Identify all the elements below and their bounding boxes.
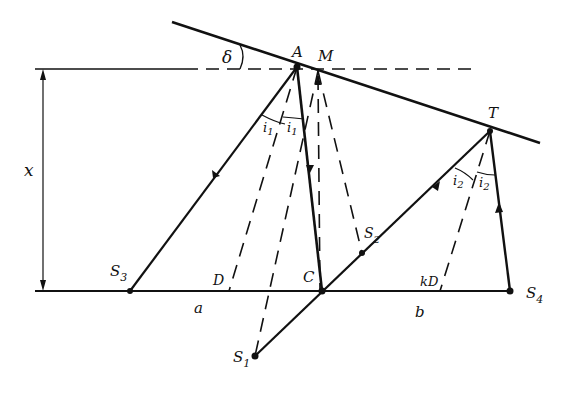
point-s1	[252, 353, 259, 360]
label-kd: kD	[420, 274, 439, 289]
point-s4	[507, 288, 514, 295]
angle-delta-arc	[240, 45, 243, 69]
label-b-distance: b	[415, 303, 425, 321]
label-s3: S3	[110, 262, 127, 284]
label-i2-left: i2	[453, 173, 464, 190]
label-t: T	[488, 104, 499, 122]
label-c: C	[303, 268, 315, 286]
seismic-reflection-diagram: A M T δ x S3 S4 S1 S2 C D kD a b i1 i1 i…	[0, 0, 573, 399]
label-i1-right: i1	[287, 120, 298, 137]
angle-i1-right-arc	[283, 117, 304, 119]
label-m: M	[317, 47, 334, 65]
depth-arrow-top	[40, 69, 46, 80]
label-i1-left: i1	[263, 120, 274, 137]
dashed-m-s2	[318, 71, 362, 253]
ray-s4-t-arrow	[495, 202, 503, 213]
label-d: D	[212, 272, 224, 288]
dashed-m-s1	[255, 71, 318, 356]
point-t	[487, 128, 493, 134]
label-delta: δ	[222, 47, 232, 67]
dashed-a-d	[229, 67, 297, 291]
reflector-line	[172, 22, 540, 143]
point-s2	[359, 250, 365, 256]
depth-arrow-bottom	[40, 280, 46, 291]
label-a: A	[290, 43, 303, 61]
label-s4: S4	[526, 284, 543, 306]
label-x: x	[24, 160, 34, 180]
label-s1: S1	[233, 348, 250, 370]
label-a-distance: a	[194, 299, 203, 317]
label-s2: S2	[364, 225, 380, 245]
ray-s3-a	[130, 67, 297, 291]
point-c	[319, 288, 326, 295]
label-i2-right: i2	[479, 175, 490, 192]
point-a	[294, 64, 301, 71]
point-s3	[127, 288, 133, 294]
